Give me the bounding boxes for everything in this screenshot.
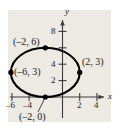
point-label-bottom: (–2, 0) <box>19 112 46 122</box>
point-left <box>8 70 13 75</box>
x-axis-label: x <box>108 92 112 101</box>
point-top <box>43 45 48 50</box>
point-label-top: (–2, 6) <box>13 37 40 47</box>
y-tick-label-2: 2 <box>51 76 56 85</box>
point-right <box>77 70 82 75</box>
y-axis <box>60 20 65 118</box>
x-tick-label-neg6: –6 <box>6 101 15 110</box>
point-label-right: (2, 3) <box>82 57 104 67</box>
y-axis-label: y <box>65 7 69 16</box>
y-tick-label-8: 8 <box>51 27 56 36</box>
x-tick-label-neg4: –4 <box>23 101 32 110</box>
point-label-left: (–6, 3) <box>14 67 41 77</box>
figure-container: x y –6 –4 2 4 2 4 8 (–2, 6) (–6, 3) (2, … <box>0 0 123 134</box>
x-tick-label-4: 4 <box>94 101 99 110</box>
point-bottom <box>43 94 48 99</box>
y-tick-label-4: 4 <box>51 60 56 69</box>
x-tick-label-2: 2 <box>77 101 82 110</box>
